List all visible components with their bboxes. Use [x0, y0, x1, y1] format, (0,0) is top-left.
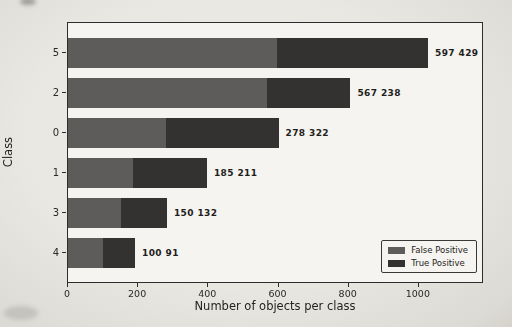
- y-tick: [62, 52, 66, 53]
- x-tick-label-0: 0: [45, 288, 89, 299]
- y-tick-label-2: 2: [41, 87, 59, 98]
- x-tick-label-800: 800: [326, 288, 370, 299]
- bar-segment-false-positive: [68, 118, 166, 148]
- x-tick: [348, 283, 349, 287]
- bar-class-4: 100 91: [68, 238, 482, 268]
- bar-segment-false-positive: [68, 198, 121, 228]
- photographed-page: False Positive True Positive 597 429567 …: [0, 0, 512, 327]
- bar-class-3: 150 132: [68, 198, 482, 228]
- y-tick: [62, 92, 66, 93]
- bar-value-label: 185 211: [214, 168, 258, 178]
- y-tick: [62, 132, 66, 133]
- bar-segment-true-positive: [267, 78, 351, 108]
- bar-value-label: 567 238: [357, 88, 401, 98]
- y-tick: [62, 212, 66, 213]
- x-tick-label-200: 200: [115, 288, 159, 299]
- page-smudge: [4, 306, 38, 320]
- x-tick: [67, 283, 68, 287]
- bar-value-label: 100 91: [142, 248, 179, 258]
- bar-class-0: 278 322: [68, 118, 482, 148]
- x-tick: [278, 283, 279, 287]
- bar-segment-true-positive: [121, 198, 167, 228]
- page-smudge: [20, 0, 36, 5]
- x-axis-label: Number of objects per class: [67, 299, 483, 313]
- y-tick-label-4: 4: [41, 247, 59, 258]
- bar-segment-true-positive: [166, 118, 279, 148]
- bar-segment-false-positive: [68, 78, 267, 108]
- bar-chart-figure: False Positive True Positive 597 429567 …: [0, 0, 512, 327]
- x-tick: [418, 283, 419, 287]
- plot-area: False Positive True Positive 597 429567 …: [67, 22, 483, 283]
- y-tick-label-1: 1: [41, 167, 59, 178]
- bar-segment-false-positive: [68, 158, 133, 188]
- y-tick-label-3: 3: [41, 207, 59, 218]
- x-tick-label-400: 400: [185, 288, 229, 299]
- bar-segment-false-positive: [68, 38, 277, 68]
- x-tick-label-600: 600: [256, 288, 300, 299]
- x-tick: [137, 283, 138, 287]
- bar-value-label: 597 429: [435, 48, 479, 58]
- bar-segment-true-positive: [133, 158, 207, 188]
- bar-class-1: 185 211: [68, 158, 482, 188]
- bar-segment-true-positive: [277, 38, 428, 68]
- x-tick-label-1000: 1000: [396, 288, 440, 299]
- bar-value-label: 278 322: [286, 128, 330, 138]
- y-axis-label: Class: [1, 97, 15, 207]
- bar-class-2: 567 238: [68, 78, 482, 108]
- bar-segment-false-positive: [68, 238, 103, 268]
- y-tick: [62, 252, 66, 253]
- bar-value-label: 150 132: [174, 208, 218, 218]
- bar-segment-true-positive: [103, 238, 135, 268]
- y-tick-label-0: 0: [41, 127, 59, 138]
- y-tick: [62, 172, 66, 173]
- y-tick-label-5: 5: [41, 47, 59, 58]
- x-tick: [207, 283, 208, 287]
- bar-class-5: 597 429: [68, 38, 482, 68]
